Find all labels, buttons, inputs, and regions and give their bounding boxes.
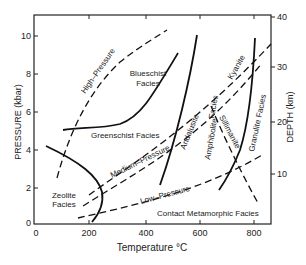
y-tick-8: 8 — [26, 69, 31, 79]
x-axis-label: Temperature°C — [117, 242, 187, 253]
low-pressure-label: Low–Pressure — [139, 184, 191, 206]
depth-tick-10: 10 — [277, 169, 287, 179]
kyanite-label: Kyanite — [226, 53, 247, 81]
y-axis-right-label: DEPTH (km) — [285, 92, 295, 143]
amphibolite-label: Amphibolite — [203, 117, 219, 160]
zeolite-label-1: Zeolite — [52, 191, 77, 200]
x-tick-400: 400 — [138, 228, 153, 238]
y-axis-left-label: PRESSURE (kbar) — [13, 84, 23, 160]
depth-tick-30: 30 — [277, 62, 287, 72]
y-tick-0: 0 — [26, 218, 31, 228]
y-tick-6: 6 — [26, 107, 31, 117]
amphibolite-facies-label: Facies — [207, 95, 220, 120]
contact-facies-label: Contact Metamorphic Facies — [157, 209, 259, 218]
y-tick-10: 10 — [21, 31, 31, 41]
blueschist-label-1: Blueschist — [130, 69, 167, 78]
greenschist-amphibolite-boundary — [160, 35, 197, 185]
y-axis-right-ticks — [271, 17, 275, 174]
zeolite-boundary — [46, 146, 102, 222]
blueschist-label-2: Facies — [136, 79, 160, 88]
metamorphic-facies-diagram: 0 200 400 600 800 0 2 4 6 8 10 10 20 30 … — [0, 0, 306, 265]
andalusite-label: Andalusite — [179, 112, 202, 151]
sillimanite-label: Sillimanite — [217, 114, 242, 151]
greenschist-label: Greenschist Facies — [91, 131, 159, 140]
x-tick-200: 200 — [81, 228, 96, 238]
x-axis-ticks — [89, 220, 254, 224]
x-tick-0: 0 — [33, 228, 38, 238]
y-tick-2: 2 — [26, 183, 31, 193]
y-tick-4: 4 — [26, 145, 31, 155]
medium-pressure-label: Medium–Pressure — [109, 143, 172, 180]
depth-tick-40: 40 — [277, 12, 287, 22]
zeolite-label-2: Facies — [52, 200, 76, 209]
x-tick-800: 800 — [246, 228, 261, 238]
x-tick-600: 600 — [192, 228, 207, 238]
